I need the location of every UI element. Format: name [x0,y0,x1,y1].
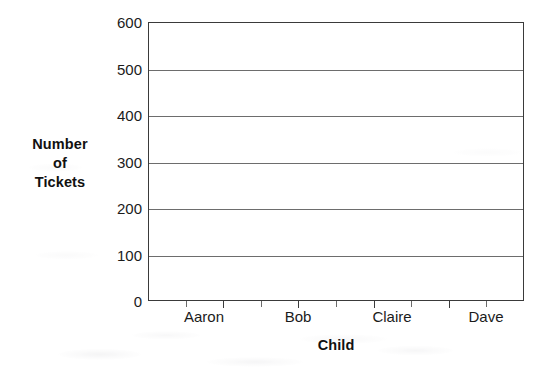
x-tick-major-claire-right [374,301,375,308]
x-category-label-claire: Claire [372,308,411,326]
bar-chart: Number of Tickets 600 500 400 300 200 10… [0,0,554,381]
x-tick-major-dave-right [449,301,450,308]
x-axis-title: Child [148,337,524,353]
y-tick-label-500: 500 [88,61,142,76]
x-axis-ticks [148,301,524,308]
x-tick-major-aaron-right [223,301,224,308]
y-tick-label-600: 600 [88,15,142,30]
y-tick-label-0: 0 [88,294,142,309]
y-tick-label-400: 400 [88,108,142,123]
x-axis-category-labels: Aaron Bob Claire Dave [148,308,524,330]
y-tick-label-100: 100 [88,247,142,262]
x-tick-minor-4 [411,301,412,307]
x-tick-minor-1 [186,301,187,307]
y-tick-label-300: 300 [88,154,142,169]
x-tick-minor-5 [486,301,487,307]
plot-area [148,22,524,301]
x-category-label-bob: Bob [285,308,312,326]
y-axis-tick-labels: 600 500 400 300 200 100 0 [88,0,142,381]
x-tick-minor-3 [336,301,337,307]
x-category-label-dave: Dave [468,308,503,326]
x-tick-major-bob-right [298,301,299,308]
y-tick-label-200: 200 [88,201,142,216]
x-tick-minor-2 [261,301,262,307]
x-category-label-aaron: Aaron [184,308,224,326]
bars-layer [149,23,523,300]
